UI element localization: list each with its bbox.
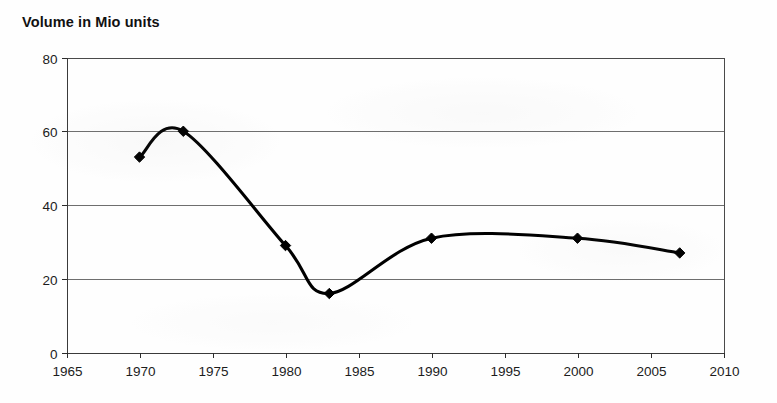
tick-marks-group bbox=[62, 59, 725, 358]
data-point-1983 bbox=[324, 288, 334, 298]
y-tick-label-60: 60 bbox=[42, 125, 57, 140]
x-tick-label-2005: 2005 bbox=[636, 364, 666, 379]
y-tick-label-80: 80 bbox=[42, 52, 57, 67]
x-tick-label-1995: 1995 bbox=[490, 364, 520, 379]
data-point-2007 bbox=[675, 248, 685, 258]
y-tick-label-40: 40 bbox=[42, 199, 57, 214]
y-tick-label-0: 0 bbox=[50, 347, 58, 362]
x-tick-label-2010: 2010 bbox=[709, 364, 739, 379]
x-tick-label-1990: 1990 bbox=[417, 364, 447, 379]
x-tick-label-1965: 1965 bbox=[52, 364, 82, 379]
data-series-volume bbox=[140, 128, 680, 294]
x-tick-label-1980: 1980 bbox=[271, 364, 301, 379]
y-tick-label-20: 20 bbox=[42, 273, 57, 288]
data-point-1990 bbox=[426, 233, 436, 243]
x-tick-label-1970: 1970 bbox=[125, 364, 155, 379]
x-tick-label-1985: 1985 bbox=[344, 364, 374, 379]
x-tick-label-1975: 1975 bbox=[198, 364, 228, 379]
y-axis-tick-labels: 020406080 bbox=[42, 52, 57, 362]
x-tick-label-2000: 2000 bbox=[563, 364, 593, 379]
chart-container: Volume in Mio units 020406080 1965197019… bbox=[0, 0, 777, 403]
line-chart-plot: 020406080 196519701975198019851990199520… bbox=[0, 0, 777, 403]
x-axis-tick-labels: 1965197019751980198519901995200020052010 bbox=[52, 364, 739, 379]
gridlines-group bbox=[67, 59, 724, 280]
data-point-markers bbox=[134, 126, 685, 299]
series-line-volume bbox=[140, 128, 680, 294]
data-point-2000 bbox=[572, 233, 582, 243]
